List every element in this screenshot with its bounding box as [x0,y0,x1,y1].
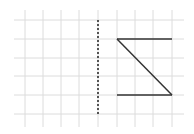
grid-lines [14,10,184,127]
reflection-grid-diagram [0,0,194,134]
shape-segment [117,39,172,95]
z-shape [117,39,172,95]
